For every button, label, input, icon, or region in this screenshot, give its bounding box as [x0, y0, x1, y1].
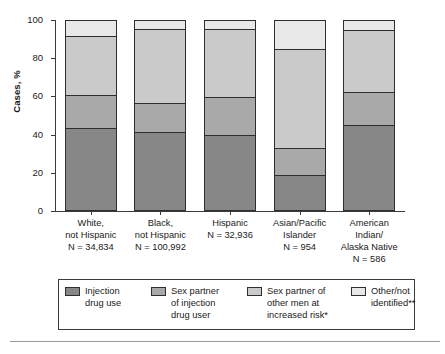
y-tick-label: 60: [32, 92, 43, 102]
y-tick-mark: [51, 173, 56, 174]
y-tick-mark: [51, 211, 56, 212]
bar-0: [65, 20, 117, 211]
bar-1: [134, 20, 186, 211]
legend-label: Injection drug use: [85, 285, 121, 309]
y-tick-40: 40: [51, 135, 56, 136]
bar-segment: [205, 29, 255, 97]
y-tick-0: 0: [51, 211, 56, 212]
bar-segment: [344, 125, 394, 210]
y-tick-60: 60: [51, 96, 56, 97]
bar-segment: [135, 103, 185, 132]
bar-segment: [275, 21, 325, 49]
plot-area: 020406080100: [56, 20, 404, 211]
y-tick-label: 100: [27, 15, 43, 25]
bar-segment: [66, 95, 116, 128]
y-tick-mark: [51, 135, 56, 136]
bar-segment: [344, 92, 394, 125]
bar-segment: [275, 49, 325, 147]
x-tick: [230, 211, 231, 215]
x-tick: [160, 211, 161, 215]
legend-item-2: Sex partner of other men at increased ri…: [247, 285, 351, 322]
bar-segment: [135, 21, 185, 29]
stacked-bar-chart: Cases, % 020406080100 White, not Hispani…: [0, 0, 445, 354]
legend-label: Sex partner of other men at increased ri…: [267, 285, 328, 322]
x-tick: [300, 211, 301, 215]
bar-2: [204, 20, 256, 211]
legend-item-3: Other/not identified**: [351, 285, 423, 322]
x-tick: [91, 211, 92, 215]
x-category-label-4: American Indian/ Alaska Native N = 586: [323, 217, 415, 265]
bar-segment: [275, 148, 325, 175]
legend-label: Sex partner of injection drug user: [171, 285, 219, 322]
y-axis-title: Cases, %: [11, 52, 22, 132]
footer-rule: [10, 341, 440, 342]
bar-segment: [275, 175, 325, 210]
y-tick-label: 80: [32, 53, 43, 63]
legend: Injection drug useSex partner of injecti…: [58, 279, 415, 330]
y-tick-20: 20: [51, 173, 56, 174]
bar-segment: [205, 21, 255, 29]
x-tick: [369, 211, 370, 215]
y-axis-line: [55, 20, 56, 211]
bar-segment: [344, 30, 394, 91]
bar-segment: [135, 132, 185, 209]
legend-swatch-icon: [151, 287, 166, 296]
bar-segment: [66, 128, 116, 210]
legend-swatch-icon: [351, 287, 366, 296]
legend-item-1: Sex partner of injection drug user: [151, 285, 247, 322]
bar-segment: [66, 36, 116, 95]
legend-label: Other/not identified**: [371, 285, 415, 309]
legend-swatch-icon: [247, 287, 262, 296]
legend-items: Injection drug useSex partner of injecti…: [65, 285, 423, 322]
legend-swatch-icon: [65, 287, 80, 296]
bar-segment: [205, 97, 255, 136]
y-tick-label: 0: [38, 206, 43, 216]
bar-segment: [66, 21, 116, 36]
y-tick-80: 80: [51, 58, 56, 59]
y-tick-label: 40: [32, 130, 43, 140]
bar-segment: [344, 21, 394, 30]
bar-segment: [205, 135, 255, 210]
y-tick-mark: [51, 96, 56, 97]
y-tick-mark: [51, 58, 56, 59]
y-tick-100: 100: [51, 20, 56, 21]
bar-4: [343, 20, 395, 211]
y-tick-label: 20: [32, 168, 43, 178]
y-tick-mark: [51, 20, 56, 21]
bar-3: [274, 20, 326, 211]
legend-item-0: Injection drug use: [65, 285, 151, 322]
bar-segment: [135, 29, 185, 104]
